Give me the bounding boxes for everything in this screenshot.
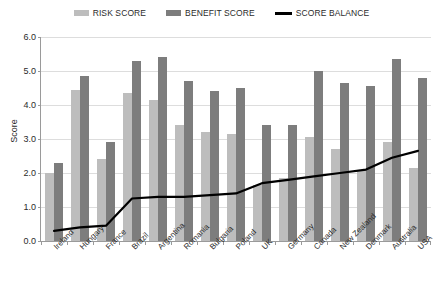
plot-area: 0.01.02.03.04.05.06.0: [41, 37, 431, 241]
bar-group: [171, 37, 197, 241]
bar-group: [41, 37, 67, 241]
chart-legend: RISK SCOREBENEFIT SCORESCORE BALANCE: [0, 8, 443, 18]
y-axis-title: Score: [9, 101, 19, 161]
bar-benefit-score[interactable]: [236, 88, 245, 241]
bar-benefit-score[interactable]: [54, 163, 63, 241]
bar-group: [145, 37, 171, 241]
bar-benefit-score[interactable]: [80, 76, 89, 241]
bar-group: [327, 37, 353, 241]
bar-benefit-score[interactable]: [418, 78, 427, 241]
y-axis-tick-label: 3.0: [23, 134, 36, 144]
bar-benefit-score[interactable]: [392, 59, 401, 241]
bar-group: [379, 37, 405, 241]
legend-color-swatch: [74, 10, 89, 16]
bar-risk-score[interactable]: [149, 100, 158, 241]
legend-score-balance[interactable]: SCORE BALANCE: [275, 8, 370, 18]
bar-benefit-score[interactable]: [288, 125, 297, 241]
legend-line-marker: [275, 12, 292, 15]
bar-risk-score[interactable]: [71, 90, 80, 241]
legend-risk-score[interactable]: RISK SCORE: [74, 8, 146, 18]
bar-benefit-score[interactable]: [210, 91, 219, 241]
bar-group: [119, 37, 145, 241]
bar-benefit-score[interactable]: [132, 61, 141, 241]
y-axis-tick-label: 6.0: [23, 32, 36, 42]
legend-benefit-score[interactable]: BENEFIT SCORE: [166, 8, 255, 18]
legend-label: SCORE BALANCE: [296, 8, 370, 18]
y-axis-tick-label: 4.0: [23, 100, 36, 110]
bar-benefit-score[interactable]: [314, 71, 323, 241]
bar-risk-score[interactable]: [123, 93, 132, 241]
bar-benefit-score[interactable]: [262, 125, 271, 241]
legend-label: RISK SCORE: [93, 8, 146, 18]
bar-groups: [41, 37, 431, 241]
bar-risk-score[interactable]: [279, 178, 288, 241]
bar-group: [249, 37, 275, 241]
bar-benefit-score[interactable]: [158, 57, 167, 241]
y-axis-tick-label: 0.0: [23, 236, 36, 246]
y-axis-tick-label: 1.0: [23, 202, 36, 212]
y-axis-tick-label: 5.0: [23, 66, 36, 76]
bar-group: [301, 37, 327, 241]
bar-group: [197, 37, 223, 241]
bar-group: [223, 37, 249, 241]
bar-group: [275, 37, 301, 241]
bar-risk-score[interactable]: [45, 173, 54, 241]
bar-group: [353, 37, 379, 241]
score-comparison-chart: RISK SCOREBENEFIT SCORESCORE BALANCE Sco…: [0, 0, 443, 296]
bar-benefit-score[interactable]: [340, 83, 349, 241]
bar-group: [93, 37, 119, 241]
bar-benefit-score[interactable]: [106, 142, 115, 241]
bar-group: [67, 37, 93, 241]
x-axis-labels: IrelandHungaryFranceBrazilArgentinaRoman…: [41, 245, 431, 295]
legend-color-swatch: [166, 10, 181, 16]
y-axis-tick-label: 2.0: [23, 168, 36, 178]
bar-benefit-score[interactable]: [184, 81, 193, 241]
legend-label: BENEFIT SCORE: [185, 8, 255, 18]
bar-group: [405, 37, 431, 241]
